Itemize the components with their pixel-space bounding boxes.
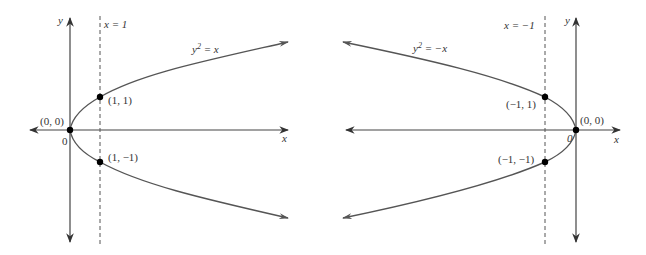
right-point-neg1-1 (542, 94, 548, 100)
left-point-1-1-label: (1, 1) (108, 94, 132, 107)
right-point-neg1-neg1-label: (−1, −1) (498, 153, 535, 166)
left-point-1-neg1 (97, 159, 103, 165)
right-equation-label: y2 = −x (412, 41, 447, 54)
parabola-diagram: y x x = 1 y2 = x (0, 0) 0 (1, 1) (1, −1)… (0, 0, 646, 255)
left-vertical-line-label: x = 1 (103, 18, 127, 30)
left-equation-label: y2 = x (191, 42, 219, 55)
right-vertical-line-label: x = −1 (503, 19, 535, 31)
left-point-1-1 (97, 94, 103, 100)
right-point-origin (573, 127, 579, 133)
right-origin-label: 0 (567, 132, 573, 144)
right-point-neg1-neg1 (542, 159, 548, 165)
left-x-axis-label: x (281, 132, 287, 144)
right-point-neg1-1-label: (−1, 1) (506, 98, 536, 111)
left-origin-point-label: (0, 0) (40, 115, 64, 128)
right-origin-point-label: (0, 0) (580, 114, 604, 127)
left-origin-label: 0 (62, 135, 68, 147)
left-point-origin (67, 127, 73, 133)
right-x-axis-label: x (613, 133, 619, 145)
right-graph: y x x = −1 y2 = −x (0, 0) 0 (−1, 1) (−1,… (343, 14, 620, 245)
left-graph: y x x = 1 y2 = x (0, 0) 0 (1, 1) (1, −1) (30, 14, 288, 245)
left-y-axis-label: y (57, 14, 63, 26)
right-y-axis-label: y (564, 14, 570, 26)
left-point-1-neg1-label: (1, −1) (108, 151, 138, 164)
